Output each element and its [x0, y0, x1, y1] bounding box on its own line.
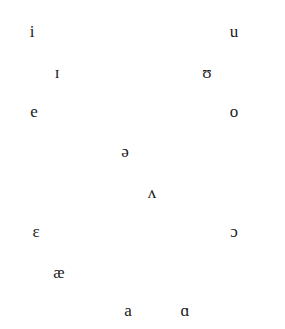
vowel-u: u: [230, 23, 239, 40]
vowel-ash: æ: [53, 264, 64, 281]
vowel-o: o: [230, 103, 239, 120]
vowel-schwa: ə: [121, 143, 129, 160]
vowel-open-e: ɛ: [32, 223, 39, 240]
vowel-open-o: ɔ: [230, 223, 238, 240]
vowel-near-close-front: ɪ: [55, 64, 60, 81]
vowel-e: e: [30, 103, 38, 120]
vowel-chart: i u ɪ ʊ e o ə ʌ ɛ ɔ æ a ɑ: [0, 0, 285, 329]
vowel-a: a: [124, 302, 132, 319]
vowel-near-close-back: ʊ: [202, 64, 211, 81]
vowel-i: i: [30, 23, 35, 40]
vowel-script-a: ɑ: [181, 302, 190, 319]
vowel-wedge: ʌ: [148, 184, 157, 201]
